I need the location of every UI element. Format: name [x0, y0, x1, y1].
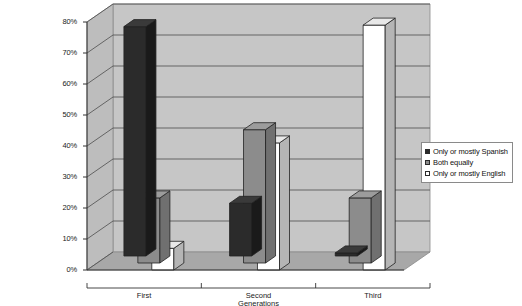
x-axis-tick-label-first: First — [109, 292, 179, 300]
x-axis-tick-label-third: Third — [338, 292, 408, 300]
legend-swatch-english — [425, 171, 430, 176]
chart-legend: Only or mostly Spanish Both equally Only… — [421, 142, 513, 183]
y-axis-tick-label: 70% — [47, 49, 77, 57]
x-axis-title: Generations — [199, 300, 319, 306]
legend-item[interactable]: Both equally — [425, 157, 508, 168]
y-axis-tick-label: 30% — [47, 173, 77, 181]
legend-label-spanish: Only or mostly Spanish — [433, 147, 508, 156]
y-axis-tick-label: 80% — [47, 18, 77, 26]
chart-3d-bar: 0%10%20%30%40%50%60%70%80% FirstSecondTh… — [0, 0, 522, 306]
y-axis-tick-label: 60% — [47, 80, 77, 88]
y-axis-tick-label: 10% — [47, 235, 77, 243]
legend-item[interactable]: Only or mostly English — [425, 168, 508, 179]
y-axis-tick-label: 20% — [47, 204, 77, 212]
y-axis-tick-label: 0% — [47, 266, 77, 274]
y-axis-tick-label: 50% — [47, 111, 77, 119]
legend-swatch-both — [425, 160, 430, 165]
legend-label-both: Both equally — [433, 158, 473, 167]
y-axis-tick-label: 40% — [47, 142, 77, 150]
legend-swatch-spanish — [425, 149, 430, 154]
legend-item[interactable]: Only or mostly Spanish — [425, 146, 508, 157]
legend-label-english: Only or mostly English — [433, 169, 505, 178]
